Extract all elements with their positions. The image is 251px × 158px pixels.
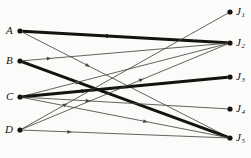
node-dot-j3[interactable] (227, 74, 232, 79)
edge-layer (22, 13, 228, 138)
node-dot-j4[interactable] (227, 106, 232, 111)
node-label-subscript: 2 (241, 42, 245, 50)
edge-c-j3 (22, 77, 227, 97)
graph-canvas (0, 0, 251, 158)
edge-a-j5 (22, 32, 228, 137)
node-label-base: C (6, 90, 13, 102)
node-label-base: B (6, 54, 13, 66)
edge-line (22, 77, 227, 97)
node-label-j2: J2 (236, 37, 245, 50)
node-dot-j5[interactable] (227, 135, 232, 140)
node-dot-j1[interactable] (227, 9, 232, 14)
node-label-c: C (6, 91, 13, 102)
node-label-base: D (5, 123, 13, 135)
node-label-base: A (6, 24, 13, 36)
node-label-j4: J4 (236, 103, 245, 116)
node-dot-d[interactable] (17, 127, 22, 132)
node-label-subscript: 3 (241, 76, 245, 84)
edge-line (22, 43, 227, 61)
edge-line (22, 13, 228, 129)
edge-line (22, 44, 228, 129)
node-label-subscript: 1 (241, 11, 245, 19)
node-label-j5: J5 (236, 132, 245, 145)
edge-b-j2 (22, 43, 227, 61)
node-dot-b[interactable] (17, 58, 22, 63)
node-label-j3: J3 (236, 71, 245, 84)
edge-line (22, 62, 227, 137)
edge-arrowhead (67, 130, 72, 134)
node-dot-a[interactable] (17, 28, 22, 33)
edge-line (22, 32, 228, 137)
node-dot-c[interactable] (17, 94, 22, 99)
edge-line (22, 31, 227, 43)
bipartite-graph-figure: ABCDJ1J2J3J4J5 (0, 0, 251, 158)
node-label-subscript: 5 (241, 137, 245, 145)
node-label-subscript: 4 (241, 108, 245, 116)
node-label-j1: J1 (236, 6, 245, 19)
edge-d-j1 (22, 13, 228, 129)
node-label-d: D (5, 124, 13, 135)
edge-arrowhead (139, 79, 144, 83)
node-label-b: B (6, 55, 13, 66)
edge-a-j2 (22, 31, 227, 43)
node-label-a: A (6, 25, 13, 36)
edge-arrowhead (143, 119, 148, 123)
edge-b-j5 (22, 62, 227, 137)
edge-d-j2 (22, 44, 228, 129)
node-dot-j2[interactable] (227, 40, 232, 45)
